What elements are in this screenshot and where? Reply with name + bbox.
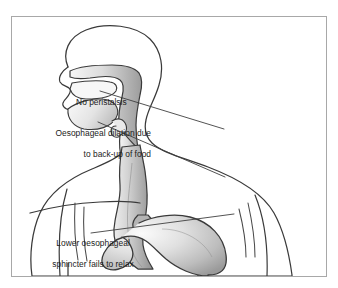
label-les-line2: sphincter fails to relax [52, 259, 133, 269]
label-dilation-line1: Oesophageal dilation due [56, 128, 151, 138]
figure-frame: No peristalsis Oesophageal dilation due … [11, 16, 327, 277]
label-no-peristalsis: No peristalsis [62, 86, 127, 118]
figure-page: No peristalsis Oesophageal dilation due … [0, 0, 338, 288]
label-oesophageal-dilation: Oesophageal dilation due to back-up of f… [15, 117, 151, 170]
label-lower-oesophageal-sphincter: Lower oesophageal sphincter fails to rel… [28, 227, 144, 280]
label-no-peristalsis-text: No peristalsis [76, 97, 127, 107]
cropped-caption-fragment [84, 0, 264, 3]
label-dilation-line2: to back-up of food [84, 149, 151, 159]
label-les-line1: Lower oesophageal [56, 238, 129, 248]
